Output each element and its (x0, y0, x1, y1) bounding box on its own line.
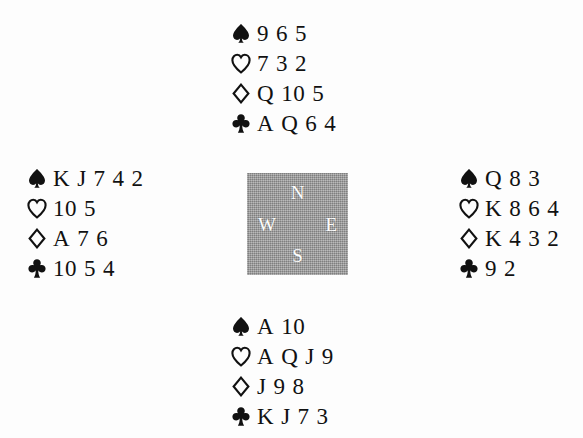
hand-west-clubs: 1054 (27, 253, 144, 283)
card-rank: 3 (528, 226, 540, 251)
diamond-icon (459, 228, 482, 249)
card-rank: 2 (295, 51, 307, 76)
hand-north-clubs-ranks: AQ64 (254, 112, 336, 135)
hand-south-clubs: KJ73 (231, 401, 334, 431)
heart-icon (27, 198, 50, 219)
hand-west-clubs-ranks: 1054 (50, 257, 115, 280)
card-rank: 10 (53, 256, 77, 281)
compass-box: N W E S (247, 173, 348, 275)
card-rank: 2 (547, 226, 559, 251)
hand-west-spades-ranks: KJ742 (50, 167, 144, 190)
diamond-icon (231, 83, 254, 104)
card-rank: 2 (504, 256, 516, 281)
card-rank: 2 (132, 166, 144, 191)
compass-south-label: S (247, 246, 348, 265)
hand-east-diamonds-ranks: K432 (482, 227, 559, 250)
hand-west-diamonds-ranks: A76 (50, 227, 108, 250)
hand-north-spades-ranks: 965 (254, 22, 307, 45)
card-rank: K (485, 196, 502, 221)
hand-south-clubs-ranks: KJ73 (254, 405, 329, 428)
club-icon (27, 258, 50, 279)
spade-icon (231, 316, 254, 337)
card-rank: 5 (295, 21, 307, 46)
hand-south-diamonds-ranks: J98 (254, 375, 304, 398)
hand-north-clubs: AQ64 (231, 108, 336, 138)
card-rank: 9 (322, 344, 334, 369)
card-rank: J (77, 166, 86, 191)
card-rank: Q (485, 166, 502, 191)
card-rank: A (257, 344, 274, 369)
hand-north-spades: 965 (231, 18, 336, 48)
card-rank: J (305, 344, 314, 369)
bridge-deal-diagram: 965 732 Q105 AQ64 KJ742 (0, 0, 583, 438)
card-rank: 7 (298, 404, 310, 429)
hand-north-hearts-ranks: 732 (254, 52, 307, 75)
spade-icon (459, 168, 482, 189)
hand-east: Q83 K864 K432 92 (459, 163, 559, 283)
card-rank: 4 (113, 166, 125, 191)
card-rank: 6 (96, 226, 108, 251)
card-rank: 5 (84, 256, 96, 281)
card-rank: J (281, 404, 290, 429)
hand-east-spades: Q83 (459, 163, 559, 193)
card-rank: 4 (324, 111, 336, 136)
card-rank: 9 (257, 21, 269, 46)
card-rank: 6 (276, 21, 288, 46)
card-rank: Q (257, 81, 274, 106)
card-rank: 7 (257, 51, 269, 76)
hand-east-clubs: 92 (459, 253, 559, 283)
club-icon (231, 113, 254, 134)
card-rank: K (257, 404, 274, 429)
heart-icon (231, 346, 254, 367)
hand-west: KJ742 105 A76 1054 (27, 163, 144, 283)
card-rank: 7 (94, 166, 106, 191)
card-rank: 8 (292, 374, 304, 399)
club-icon (459, 258, 482, 279)
card-rank: 8 (509, 196, 521, 221)
hand-west-hearts-ranks: 105 (50, 197, 96, 220)
hand-south-hearts: AQJ9 (231, 341, 334, 371)
card-rank: 3 (528, 166, 540, 191)
card-rank: Q (281, 111, 298, 136)
card-rank: 10 (281, 81, 305, 106)
card-rank: A (257, 111, 274, 136)
card-rank: A (53, 226, 70, 251)
spade-icon (231, 23, 254, 44)
card-rank: 6 (305, 111, 317, 136)
card-rank: 9 (273, 374, 285, 399)
hand-east-diamonds: K432 (459, 223, 559, 253)
hand-east-spades-ranks: Q83 (482, 167, 540, 190)
card-rank: 9 (485, 256, 497, 281)
hand-east-clubs-ranks: 92 (482, 257, 516, 280)
card-rank: 3 (317, 404, 329, 429)
diamond-icon (27, 228, 50, 249)
card-rank: Q (281, 344, 298, 369)
hand-south-hearts-ranks: AQJ9 (254, 345, 334, 368)
spade-icon (27, 168, 50, 189)
hand-east-hearts: K864 (459, 193, 559, 223)
card-rank: 10 (281, 314, 305, 339)
card-rank: 8 (509, 166, 521, 191)
hand-north-hearts: 732 (231, 48, 336, 78)
hand-north-diamonds: Q105 (231, 78, 336, 108)
card-rank: 5 (312, 81, 324, 106)
hand-north: 965 732 Q105 AQ64 (231, 18, 336, 138)
hand-south-spades-ranks: A10 (254, 315, 305, 338)
card-rank: J (257, 374, 266, 399)
hand-south: A10 AQJ9 J98 KJ73 (231, 311, 334, 431)
heart-icon (231, 53, 254, 74)
card-rank: 7 (77, 226, 89, 251)
card-rank: K (485, 226, 502, 251)
card-rank: 5 (84, 196, 96, 221)
card-rank: 4 (103, 256, 115, 281)
diamond-icon (231, 376, 254, 397)
card-rank: 4 (509, 226, 521, 251)
hand-south-spades: A10 (231, 311, 334, 341)
hand-west-diamonds: A76 (27, 223, 144, 253)
card-rank: 3 (276, 51, 288, 76)
club-icon (231, 406, 254, 427)
card-rank: A (257, 314, 274, 339)
hand-north-diamonds-ranks: Q105 (254, 82, 324, 105)
card-rank: K (53, 166, 70, 191)
card-rank: 4 (547, 196, 559, 221)
